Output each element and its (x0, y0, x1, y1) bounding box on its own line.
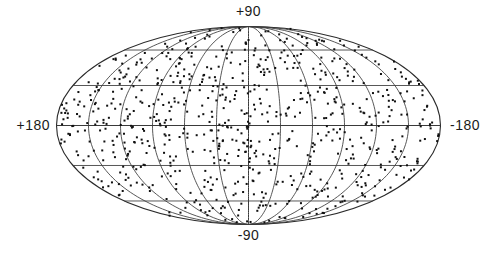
data-point (222, 49, 224, 51)
data-point (266, 68, 268, 70)
data-point (287, 55, 289, 57)
data-point (147, 140, 149, 142)
data-point (166, 198, 168, 200)
data-point (226, 57, 228, 59)
data-point (334, 100, 336, 102)
data-point (228, 119, 230, 121)
data-point (393, 148, 395, 150)
data-point (126, 108, 128, 110)
data-point (218, 148, 220, 150)
data-point (266, 112, 268, 114)
data-point (101, 180, 103, 182)
data-point (268, 71, 270, 73)
data-point (366, 98, 368, 100)
data-point (129, 113, 131, 115)
data-point (360, 176, 362, 178)
data-point (215, 56, 217, 58)
data-point (359, 107, 361, 109)
data-point (249, 157, 251, 159)
data-point (316, 190, 318, 192)
data-point (94, 124, 96, 126)
data-point (218, 124, 220, 126)
data-point (268, 49, 270, 51)
data-point (394, 68, 396, 70)
data-point (153, 116, 155, 118)
data-point (146, 66, 148, 68)
data-point (121, 88, 123, 90)
data-point (328, 131, 330, 133)
data-point (259, 204, 261, 206)
data-point (262, 153, 264, 155)
data-point (365, 123, 367, 125)
data-point (363, 142, 365, 144)
data-point (310, 156, 312, 158)
data-point (301, 98, 303, 100)
data-point (267, 121, 269, 123)
data-point (93, 150, 95, 152)
data-point (188, 73, 190, 75)
data-point (242, 80, 244, 82)
data-point (431, 122, 433, 124)
data-point (207, 97, 209, 99)
data-point (346, 63, 348, 65)
data-point (346, 148, 348, 150)
data-point (62, 118, 64, 120)
data-point (141, 139, 143, 141)
data-point (206, 214, 208, 216)
data-point (167, 52, 169, 54)
data-point (167, 172, 169, 174)
data-point (311, 146, 313, 148)
data-point (217, 85, 219, 87)
data-point (262, 205, 264, 207)
mollweide-projection-plot (0, 0, 496, 253)
data-point (112, 58, 114, 60)
data-point (237, 214, 239, 216)
data-point (63, 107, 65, 109)
data-point (256, 66, 258, 68)
data-point (216, 199, 218, 201)
data-point (301, 207, 303, 209)
data-point (246, 126, 248, 128)
data-point (274, 67, 276, 69)
data-point (247, 121, 249, 123)
data-point (333, 128, 335, 130)
data-point (275, 203, 277, 205)
data-point (164, 122, 166, 124)
data-point (355, 173, 357, 175)
data-point (98, 89, 100, 91)
data-point (260, 102, 262, 104)
data-point (103, 122, 105, 124)
data-point (263, 68, 265, 70)
data-point (317, 91, 319, 93)
data-point (236, 221, 238, 223)
data-point (253, 193, 255, 195)
data-point (272, 133, 274, 135)
data-point (221, 88, 223, 90)
data-point (341, 113, 343, 115)
data-point (151, 58, 153, 60)
data-point (215, 80, 217, 82)
data-point (288, 138, 290, 140)
data-point (238, 149, 240, 151)
data-point (255, 155, 257, 157)
data-point (209, 121, 211, 123)
data-point (249, 167, 251, 169)
data-point (253, 54, 255, 56)
data-point (260, 201, 262, 203)
data-point (319, 63, 321, 65)
data-point (148, 105, 150, 107)
data-point (212, 184, 214, 186)
data-point (65, 102, 67, 104)
data-point (189, 78, 191, 80)
data-point (421, 89, 423, 91)
data-point (216, 178, 218, 180)
data-point (209, 150, 211, 152)
data-point (106, 123, 108, 125)
data-point (222, 125, 224, 127)
data-point (186, 48, 188, 50)
data-point (269, 139, 271, 141)
data-point (401, 135, 403, 137)
data-point (292, 67, 294, 69)
data-point (344, 200, 346, 202)
data-point (403, 177, 405, 179)
